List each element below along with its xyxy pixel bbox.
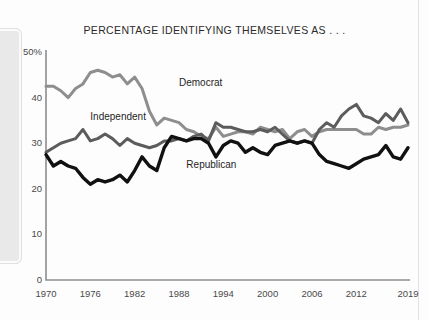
y-axis-tick-20: 20 <box>4 183 42 194</box>
y-axis-tick-40: 40 <box>4 92 42 103</box>
chart-screenshot: PERCENTAGE IDENTIFYING THEMSELVES AS . .… <box>0 0 429 320</box>
y-axis-tick-0: 0 <box>4 274 42 285</box>
series-label-democrat: Democrat <box>179 77 222 88</box>
y-axis-tick-30: 30 <box>4 137 42 148</box>
y-axis-tick-50: 50% <box>4 46 42 57</box>
series-label-independent: Independent <box>90 111 146 122</box>
series-label-republican: Republican <box>186 159 236 170</box>
y-axis-tick-10: 10 <box>4 228 42 239</box>
x-axis-tick-2019: 2019 <box>378 288 429 299</box>
line-chart: PERCENTAGE IDENTIFYING THEMSELVES AS . .… <box>0 0 429 320</box>
